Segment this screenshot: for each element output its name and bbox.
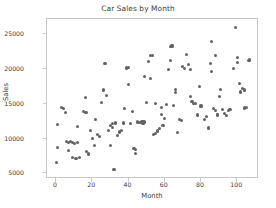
data-point [160,113,163,116]
y-tick-label: 25000 [4,30,24,37]
data-point [134,148,137,151]
data-point [87,153,90,156]
data-point [154,102,157,105]
y-tick-label: 10000 [4,134,24,141]
data-point [198,85,201,88]
data-point [160,106,163,109]
data-point [189,68,192,71]
y-tick-mark [43,138,47,139]
data-point [73,142,76,145]
data-point [232,67,235,70]
x-tick-label: 40 [124,181,132,188]
data-point [71,156,74,159]
data-point [98,135,101,138]
data-point [131,110,134,113]
data-point [248,58,251,61]
y-tick-label: 5000 [8,169,24,176]
data-point [228,108,231,111]
data-point [187,63,190,66]
data-point [205,115,208,118]
data-point [170,45,173,48]
data-point [209,62,212,65]
data-point [67,149,70,152]
y-tick-mark [43,103,47,104]
data-point [214,54,217,57]
data-point [103,62,106,65]
data-point [234,26,237,29]
data-point [163,117,166,120]
data-point [111,126,114,129]
data-point [174,91,177,94]
data-point [91,137,94,140]
x-tick-label: 100 [230,181,242,188]
data-point [127,83,130,86]
data-point [199,104,202,107]
chart-title: Car Sales by Month [0,4,276,13]
data-point [149,77,152,80]
data-point [176,131,179,134]
x-tick-label: 0 [53,181,57,188]
data-point [109,144,112,147]
x-axis-label: Month [46,192,258,200]
data-point [243,88,246,91]
data-point [78,156,81,159]
data-point [216,113,219,116]
data-point [100,101,103,104]
data-point [207,127,210,130]
data-point [225,114,228,117]
data-point [165,103,168,106]
data-point [210,40,213,43]
data-point [93,144,96,147]
data-point [55,161,58,164]
data-point [120,129,123,132]
data-point [56,123,59,126]
data-point [151,54,154,57]
y-tick-mark [43,68,47,69]
data-point [143,120,146,123]
data-point [245,106,248,109]
data-point [76,125,79,128]
data-point [236,61,239,64]
data-point [102,88,105,91]
data-point [76,141,79,144]
data-point [161,124,164,127]
data-point [203,118,206,121]
y-tick-label: 15000 [4,99,24,106]
data-point [172,104,175,107]
plot-area [46,18,258,178]
data-point [74,157,77,160]
data-point [85,111,88,114]
data-point [114,121,117,124]
data-point [239,90,242,93]
data-point [167,68,170,71]
data-point [107,129,110,132]
data-point [129,122,132,125]
y-tick-mark [43,172,47,173]
data-point [194,102,197,105]
data-point [185,53,188,56]
data-point [214,109,217,112]
data-point [183,67,186,70]
y-tick-label: 20000 [4,65,24,72]
data-point [123,107,126,110]
data-point [236,56,239,59]
data-point [180,119,183,122]
data-point [145,101,148,104]
data-point [64,111,67,114]
data-point [189,95,192,98]
x-tick-label: 80 [196,181,204,188]
scatter-chart-figure: Car Sales by Month Sales Month 500010000… [0,0,276,208]
data-point [196,113,199,116]
data-point [169,59,172,62]
data-point [84,96,87,99]
data-point [89,129,92,132]
data-point [62,107,65,110]
data-point [94,118,97,121]
data-point [147,60,150,63]
data-point [134,152,137,155]
data-point [111,122,114,125]
data-point [218,95,221,98]
data-point [219,88,222,91]
data-point [56,146,59,149]
data-point [127,66,130,69]
